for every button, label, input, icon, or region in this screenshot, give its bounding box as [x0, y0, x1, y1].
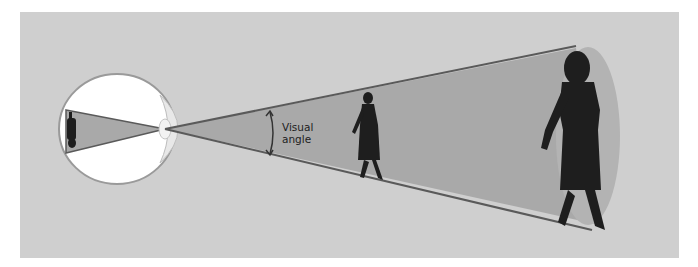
visual-cone	[165, 48, 600, 225]
visual-angle-label: Visual angle	[282, 121, 313, 145]
label-line-1: Visual	[282, 121, 313, 133]
label-line-2: angle	[282, 133, 313, 145]
visual-angle-diagram	[0, 0, 698, 267]
